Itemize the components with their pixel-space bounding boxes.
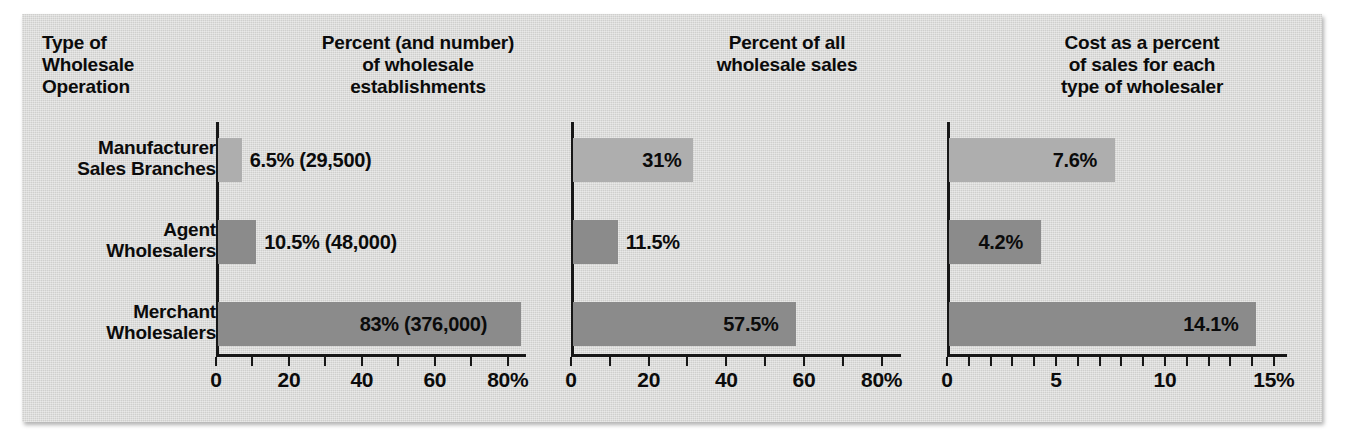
x-axis-tick-label: 80% (861, 368, 902, 392)
x-axis-tick (251, 357, 253, 366)
row-label-line2: Sales Branches (22, 158, 216, 179)
x-axis-tick (1077, 357, 1079, 366)
x-axis-tick (570, 357, 572, 366)
bar-chart-wholesale-sales: 020406080%31%11.5%57.5% (571, 122, 941, 380)
x-axis-tick (946, 357, 948, 366)
x-axis-tick-label: 20 (637, 368, 660, 392)
x-axis-tick (648, 357, 650, 366)
bar-chart-cost-percent-of-sales: 051015%7.6%4.2%14.1% (947, 122, 1327, 380)
x-axis-tick (324, 357, 326, 366)
x-axis-tick (288, 357, 290, 366)
x-axis-tick (725, 357, 727, 366)
row-label-line1: Manufacturer (98, 137, 216, 158)
chart-body: Manufacturer Sales Branches Agent Wholes… (22, 122, 1322, 422)
chart-figure: Type of Wholesale Operation Percent (and… (0, 0, 1350, 442)
x-axis-tick (1251, 357, 1253, 366)
x-axis-tick (990, 357, 992, 366)
bar-value-label: 6.5% (29,500) (250, 138, 372, 182)
header-chart-1: Percent (and number) of wholesale establ… (258, 32, 578, 98)
row-label-line2: Wholesalers (22, 322, 216, 343)
header-chart-3-line1: Cost as a percent (1065, 32, 1220, 53)
bar (218, 138, 242, 182)
header-chart-2: Percent of all wholesale sales (622, 32, 952, 76)
x-axis-tick (1120, 357, 1122, 366)
x-axis-tick-label: 0 (941, 368, 952, 392)
x-axis-tick (361, 357, 363, 366)
x-axis-line (216, 354, 526, 357)
x-axis-tick-label: 40 (715, 368, 738, 392)
x-axis-line (571, 354, 901, 357)
x-axis-tick (1033, 357, 1035, 366)
x-axis-tick-label: 10 (1154, 368, 1177, 392)
x-axis-tick (397, 357, 399, 366)
row-label-line1: Agent (163, 219, 216, 240)
x-axis-tick-label: 20 (278, 368, 301, 392)
x-axis-tick (1055, 357, 1057, 366)
row-label-manufacturer-sales-branches: Manufacturer Sales Branches (22, 137, 216, 179)
bar-value-label: 14.1% (1183, 302, 1238, 346)
header-chart-3-line3: type of wholesaler (1061, 76, 1223, 97)
x-axis-tick-label: 0 (565, 368, 576, 392)
bar-value-label: 11.5% (626, 220, 680, 264)
plot-area: 020406080%31%11.5%57.5% (571, 122, 901, 354)
x-axis-tick-label: 60 (423, 368, 446, 392)
bar-value-label: 57.5% (723, 302, 778, 346)
header-row-label-line3: Operation (42, 76, 130, 97)
x-axis-line (947, 354, 1287, 357)
x-axis-tick (803, 357, 805, 366)
plot-area: 020406080%6.5% (29,500)10.5% (48,000)83%… (216, 122, 526, 354)
x-axis-tick-label: 15% (1253, 368, 1294, 392)
row-label-agent-wholesalers: Agent Wholesalers (22, 219, 216, 261)
x-axis-tick (507, 357, 509, 366)
x-axis-tick (1273, 357, 1275, 366)
x-axis-tick-label: 0 (210, 368, 221, 392)
header-row-label-line1: Type of (42, 32, 107, 53)
chart-panel: Type of Wholesale Operation Percent (and… (22, 14, 1322, 422)
header-row-label-line2: Wholesale (42, 54, 134, 75)
bar (218, 220, 256, 264)
x-axis-tick (686, 357, 688, 366)
x-axis-tick (881, 357, 883, 366)
header-chart-3: Cost as a percent of sales for each type… (972, 32, 1312, 98)
x-axis-tick-label: 60 (793, 368, 816, 392)
x-axis-tick (609, 357, 611, 366)
header-chart-2-line2: wholesale sales (717, 54, 858, 75)
x-axis-tick (215, 357, 217, 366)
bar-value-label: 7.6% (1053, 138, 1097, 182)
x-axis-tick (1208, 357, 1210, 366)
x-axis-tick (1186, 357, 1188, 366)
bar-value-label: 4.2% (979, 220, 1023, 264)
x-axis-tick-label: 80% (487, 368, 528, 392)
bar-value-label: 83% (376,000) (360, 302, 487, 346)
x-axis-tick (1229, 357, 1231, 366)
x-axis-tick (764, 357, 766, 366)
row-label-line2: Wholesalers (22, 240, 216, 261)
x-axis-tick (1011, 357, 1013, 366)
row-label-column: Manufacturer Sales Branches Agent Wholes… (22, 122, 216, 372)
header-chart-3-line2: of sales for each (1069, 54, 1216, 75)
header-chart-1-line1: Percent (and number) (322, 32, 514, 53)
x-axis-tick-label: 40 (350, 368, 373, 392)
bar-value-label: 31% (642, 138, 681, 182)
row-label-merchant-wholesalers: Merchant Wholesalers (22, 301, 216, 343)
bar (573, 220, 618, 264)
bar-value-label: 10.5% (48,000) (264, 220, 397, 264)
x-axis-tick (434, 357, 436, 366)
x-axis-tick (842, 357, 844, 366)
column-headers: Type of Wholesale Operation Percent (and… (22, 14, 1322, 122)
bar-chart-wholesale-establishments: 020406080%6.5% (29,500)10.5% (48,000)83%… (216, 122, 566, 380)
header-chart-1-line2: of wholesale (362, 54, 474, 75)
row-label-line1: Merchant (133, 301, 216, 322)
x-axis-tick (1142, 357, 1144, 366)
x-axis-tick (1164, 357, 1166, 366)
header-chart-2-line1: Percent of all (729, 32, 846, 53)
x-axis-tick (470, 357, 472, 366)
x-axis-tick (968, 357, 970, 366)
x-axis-tick (1099, 357, 1101, 366)
header-chart-1-line3: establishments (350, 76, 486, 97)
plot-area: 051015%7.6%4.2%14.1% (947, 122, 1287, 354)
x-axis-tick-label: 5 (1050, 368, 1061, 392)
header-row-label: Type of Wholesale Operation (42, 32, 262, 98)
